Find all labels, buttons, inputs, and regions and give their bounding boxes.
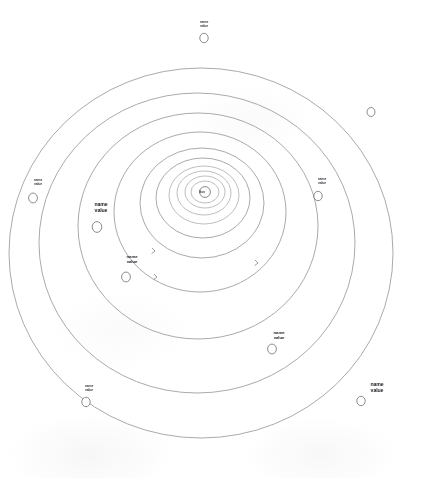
orbit-ring <box>39 93 355 393</box>
orbit-ring <box>9 68 393 438</box>
orbit-ring <box>156 158 250 238</box>
planet-label: namevalue <box>253 330 305 340</box>
planet-marker <box>357 396 365 405</box>
planet-value: value <box>296 181 348 185</box>
planet-label: namevalue <box>351 381 403 393</box>
planet-marker <box>82 397 90 406</box>
planet-marker <box>200 33 208 42</box>
planet-marker <box>122 272 131 282</box>
planet-marker <box>314 191 322 200</box>
orbit-ring <box>78 113 318 339</box>
planet-value: value <box>178 24 230 28</box>
planet-value: value <box>253 335 305 340</box>
planet-label: namevalue <box>12 178 64 186</box>
planet-value: value <box>63 388 115 392</box>
direction-arrow-icon <box>154 274 157 280</box>
planet-markers <box>29 33 375 406</box>
planet-marker <box>92 222 102 233</box>
sun-label: Sun <box>199 190 205 194</box>
planet-value: value <box>75 207 127 213</box>
direction-arrow-icon <box>152 248 155 254</box>
direction-arrows <box>152 248 258 280</box>
planet-label: namevalue <box>106 254 158 264</box>
orbit-diagram <box>0 0 439 478</box>
planet-marker <box>29 193 38 203</box>
orbit-ring <box>114 132 286 292</box>
direction-arrow-icon <box>255 260 258 266</box>
planet-marker <box>268 344 277 354</box>
planet-value: value <box>351 387 403 393</box>
planet-marker <box>367 108 375 117</box>
planet-value: value <box>106 259 158 264</box>
orbit-rings <box>9 68 393 438</box>
planet-value: value <box>12 182 64 186</box>
planet-label: namevalue <box>75 201 127 213</box>
planet-label: namevalue <box>63 384 115 392</box>
planet-label: namevalue <box>296 177 348 185</box>
planet-label: namevalue <box>178 20 230 28</box>
